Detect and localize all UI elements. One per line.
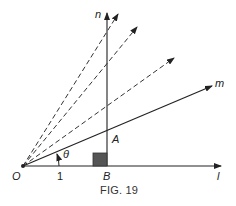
label-unit: 1 bbox=[57, 170, 63, 182]
angle-arc bbox=[57, 154, 59, 166]
dashed-ray-3 bbox=[23, 14, 118, 166]
label-m: m bbox=[215, 77, 224, 89]
right-angle-marker bbox=[93, 153, 107, 166]
figure-caption: FIG. 19 bbox=[100, 184, 138, 196]
origin-point bbox=[21, 164, 25, 168]
label-B: B bbox=[103, 170, 110, 182]
label-l: l bbox=[217, 170, 220, 182]
label-theta: θ bbox=[63, 148, 69, 160]
label-n: n bbox=[95, 8, 101, 20]
dashed-ray-2 bbox=[23, 27, 137, 166]
figure-diagram: n m A θ O 1 B l FIG. 19 bbox=[0, 0, 236, 206]
label-A: A bbox=[111, 133, 119, 145]
label-O: O bbox=[12, 170, 21, 182]
